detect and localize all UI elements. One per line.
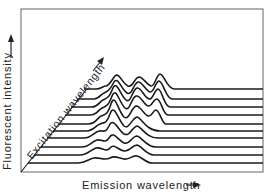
trace-1 — [28, 156, 263, 163]
y-axis-label: Fluorescent intensity — [1, 52, 13, 170]
svg-text:Fluorescent intensity: Fluorescent intensity — [1, 52, 13, 170]
fluorescence-diagram: Fluorescent intensity Excitation wavelen… — [0, 0, 271, 195]
x-axis-label: Emission wavelength — [82, 179, 201, 191]
trace-7 — [65, 93, 263, 115]
